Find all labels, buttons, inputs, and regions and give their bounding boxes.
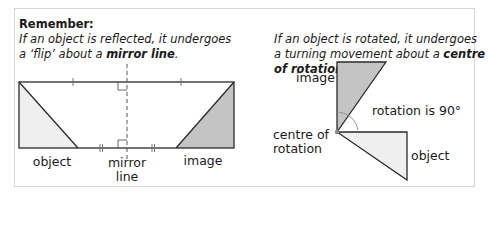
centre-of-rotation-point bbox=[335, 130, 339, 134]
rotation-diagram bbox=[335, 62, 407, 180]
reflection-diagram bbox=[19, 64, 234, 162]
mirror-label-line-2: line bbox=[104, 170, 150, 184]
image-label: image bbox=[180, 154, 226, 168]
rotated-image-triangle bbox=[337, 62, 386, 132]
centre-label-line-1: centre of bbox=[273, 128, 335, 142]
right-angle-marker-bottom bbox=[118, 140, 127, 148]
rotation-angle-label: rotation is 90° bbox=[372, 104, 482, 118]
centre-of-rotation-label: centre of rotation bbox=[273, 128, 335, 156]
rotated-object-triangle bbox=[337, 132, 407, 180]
object-label: object bbox=[28, 155, 76, 169]
centre-label-line-2: rotation bbox=[273, 142, 335, 156]
mirror-line-label: mirror line bbox=[104, 156, 150, 184]
rotation-object-label: object bbox=[411, 149, 461, 163]
rotation-image-label: image bbox=[293, 71, 335, 85]
right-angle-marker-top bbox=[118, 82, 127, 90]
mirror-label-line-1: mirror bbox=[104, 156, 150, 170]
